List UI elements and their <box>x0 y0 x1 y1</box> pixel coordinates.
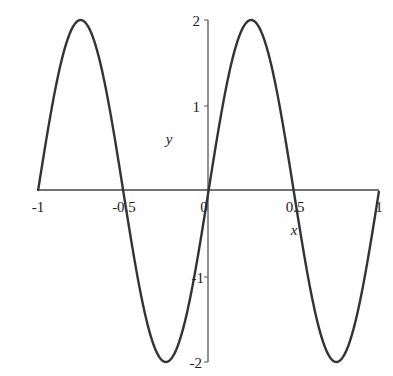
y-tick-label: -1 <box>192 270 205 286</box>
x-tick-label: 0 <box>200 199 208 215</box>
x-tick-label: -0.5 <box>112 199 136 215</box>
y-tick-label: 2 <box>193 13 201 29</box>
y-axis-title: y <box>164 131 173 147</box>
y-tick-label: -2 <box>190 355 203 371</box>
y-tick-label: 1 <box>193 99 201 115</box>
x-tick-label: -1 <box>32 199 45 215</box>
x-tick-label: 0.5 <box>286 199 305 215</box>
x-axis-title: x <box>290 222 298 238</box>
x-tick-label: 1 <box>375 199 383 215</box>
chart: -1 -0.5 0 0.5 1 2 1 -1 -2 x y <box>0 0 393 376</box>
